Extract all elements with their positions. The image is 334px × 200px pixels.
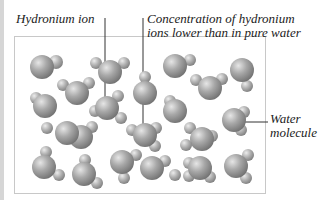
water-molecule	[230, 58, 254, 92]
water-molecule	[190, 73, 228, 100]
water-molecule	[126, 122, 162, 152]
water-molecule	[57, 77, 95, 105]
water-molecule	[163, 54, 196, 78]
water-molecule	[163, 95, 187, 123]
water-molecule	[41, 121, 79, 145]
water-molecule	[90, 57, 130, 84]
water-molecule	[110, 149, 142, 184]
water-molecule	[30, 92, 57, 118]
water-molecule	[30, 55, 63, 79]
water-molecule	[222, 106, 250, 136]
water-molecule	[72, 154, 103, 189]
water-molecule	[133, 71, 157, 105]
hydronium-ion	[89, 90, 127, 124]
water-molecule	[32, 146, 65, 181]
molecule-diagram	[0, 0, 334, 200]
water-molecule	[224, 149, 254, 184]
